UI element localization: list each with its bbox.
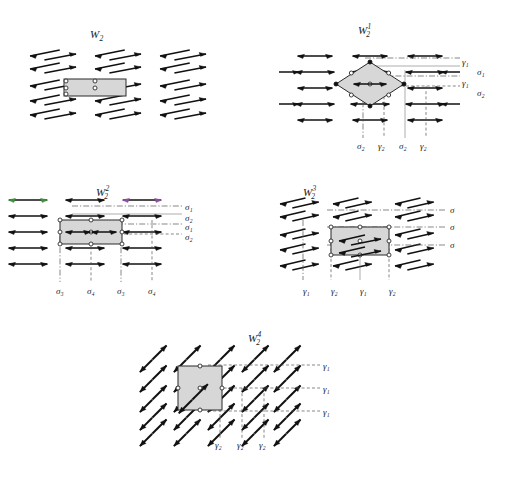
label-right-0-p3: σ₁ — [185, 202, 193, 212]
label-right-3-p2: σ₂ — [477, 88, 485, 98]
panel-w2-1-graphics — [255, 0, 510, 180]
label-right-2-p4: σ — [450, 240, 454, 250]
panel-w2-4: W42 γ₁ γ₁ γ₁ γ₂ γ₂ γ₂ — [130, 318, 390, 486]
panel-w2-2-graphics — [0, 180, 255, 310]
label-bottom-1-p3: σ₄ — [87, 286, 95, 296]
label-bottom-3-p2: γ₂ — [420, 141, 427, 151]
label-bottom-0-p4: γ₁ — [303, 286, 310, 296]
label-right-0-p4: σ — [450, 205, 454, 215]
label-right-0-p2: γ₁ — [462, 57, 469, 67]
label-right-0-p5: γ₁ — [323, 361, 330, 371]
label-right-1-p4: σ — [450, 222, 454, 232]
panel-w2-1: W12 γ₁ σ₁ γ₁ σ₂ σ₂ γ₂ σ₂ γ₂ — [255, 0, 510, 180]
label-bottom-1-p5: γ₂ — [237, 440, 244, 450]
label-bottom-0-p3: σ₃ — [56, 286, 64, 296]
label-right-2-p5: γ₁ — [323, 407, 330, 417]
label-bottom-2-p3: σ₃ — [117, 286, 125, 296]
panel-w2-4-graphics — [130, 318, 390, 486]
label-right-2-p2: γ₁ — [462, 78, 469, 88]
label-bottom-3-p3: σ₄ — [148, 286, 156, 296]
label-right-1-p2: σ₁ — [477, 67, 485, 77]
panel-w2-graphics — [0, 0, 255, 180]
panel-w2: W2 — [0, 0, 255, 180]
label-bottom-2-p4: γ₁ — [360, 286, 367, 296]
label-bottom-3-p4: γ₂ — [389, 286, 396, 296]
label-right-1-p5: γ₁ — [323, 384, 330, 394]
label-bottom-1-p2: γ₂ — [378, 141, 385, 151]
panel-w2-2: W22 σ₁ σ₂ σ₁ σ₂ σ₃ σ₄ σ₃ σ₄ — [0, 180, 255, 310]
label-right-2-p3: σ₁ — [185, 222, 193, 232]
label-bottom-0-p5: γ₂ — [215, 440, 222, 450]
label-bottom-2-p5: γ₂ — [259, 440, 266, 450]
panel-w2-3: W32 σ σ σ γ₁ γ₂ γ₁ γ₂ — [255, 180, 510, 310]
label-bottom-1-p4: γ₂ — [331, 286, 338, 296]
label-bottom-2-p2: σ₂ — [399, 141, 407, 151]
panel-w2-3-graphics — [255, 180, 510, 310]
label-bottom-0-p2: σ₂ — [357, 141, 365, 151]
label-right-3-p3: σ₂ — [185, 232, 193, 242]
